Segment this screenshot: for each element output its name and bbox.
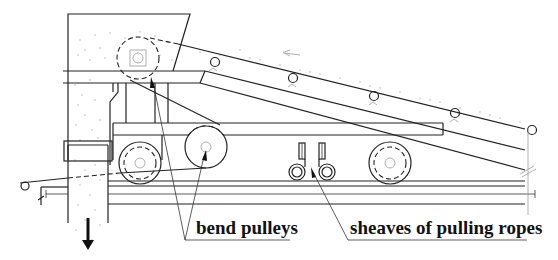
label-sheaves: sheaves of pulling ropes bbox=[350, 217, 542, 238]
left-wheel bbox=[119, 142, 161, 184]
discharge-chute bbox=[64, 141, 112, 223]
sheave-left bbox=[289, 143, 305, 180]
idler bbox=[370, 92, 379, 101]
break-mark bbox=[520, 128, 536, 215]
idler bbox=[211, 58, 220, 67]
material-stipple bbox=[74, 31, 520, 240]
right-wheel bbox=[369, 142, 411, 184]
label-bend-pulleys: bend pulleys bbox=[196, 217, 298, 238]
sheave-right bbox=[319, 143, 335, 180]
conveyor-diagram: bend pulleys sheaves of pulling ropes bbox=[0, 0, 558, 260]
idler bbox=[528, 126, 537, 135]
rail-track bbox=[38, 181, 535, 205]
upper-frame bbox=[63, 71, 205, 83]
idler bbox=[289, 74, 298, 83]
lower-bend-pulley bbox=[185, 126, 227, 168]
belt-return bbox=[130, 80, 220, 125]
upper-bend-pulley bbox=[117, 37, 159, 79]
discharge-arrow bbox=[82, 218, 94, 250]
belt-direction-arrow bbox=[283, 50, 300, 56]
hopper bbox=[68, 14, 190, 160]
